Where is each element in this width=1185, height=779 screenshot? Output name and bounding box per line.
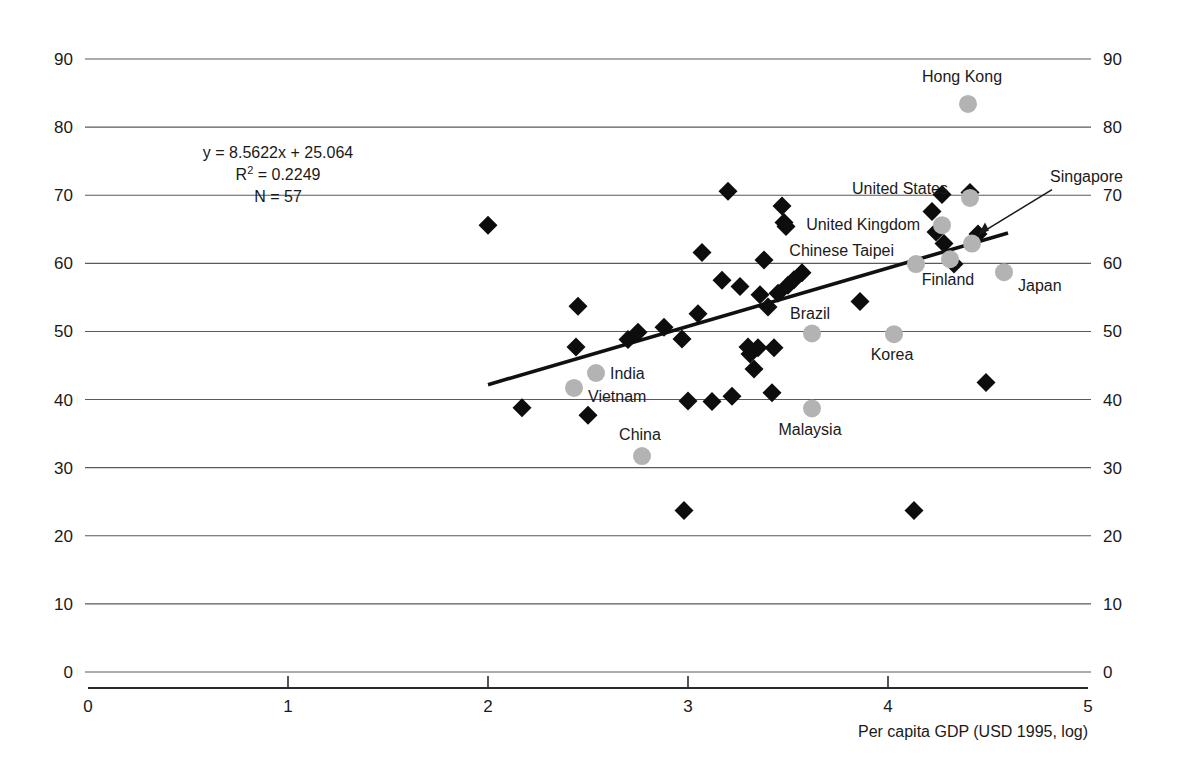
data-point-diamond	[675, 501, 694, 520]
y-axis-right-tick-labels: 0102030405060708090	[1103, 50, 1122, 682]
y-tick-label-right: 80	[1103, 118, 1122, 137]
data-point-diamond	[773, 197, 792, 216]
y-tick-label-right: 40	[1103, 391, 1122, 410]
data-point-circle	[885, 325, 903, 343]
data-point-diamond	[713, 271, 732, 290]
data-point-label: India	[610, 365, 645, 382]
data-point-circle	[959, 95, 977, 113]
data-point-diamond	[673, 329, 692, 348]
y-axis-left-tick-labels: 0102030405060708090	[54, 50, 73, 682]
y-tick-label-left: 60	[54, 254, 73, 273]
data-point-label: Korea	[871, 346, 914, 363]
y-tick-label-right: 50	[1103, 322, 1122, 341]
x-tick-label: 4	[883, 697, 892, 716]
y-tick-label-left: 10	[54, 595, 73, 614]
data-point-circle	[961, 189, 979, 207]
data-point-label: Hong Kong	[922, 68, 1002, 85]
data-point-diamond	[569, 297, 588, 316]
y-tick-label-right: 90	[1103, 50, 1122, 69]
data-point-diamond	[977, 373, 996, 392]
label-leader-lines	[978, 190, 1052, 236]
data-point-diamond	[905, 501, 924, 520]
scatter-chart: 0102030405060708090 0102030405060708090 …	[0, 0, 1185, 779]
y-tick-label-right: 0	[1103, 663, 1112, 682]
y-tick-label-right: 10	[1103, 595, 1122, 614]
sample-size: N = 57	[254, 188, 302, 205]
data-point-circle	[963, 235, 981, 253]
x-tick-label: 0	[83, 697, 92, 716]
data-point-diamond	[719, 182, 738, 201]
data-point-circle	[803, 324, 821, 342]
data-point-circle	[565, 379, 583, 397]
x-tick-label: 3	[683, 697, 692, 716]
data-point-label: China	[619, 426, 661, 443]
data-point-diamond	[755, 250, 774, 269]
x-axis	[88, 676, 1088, 688]
plot-area: 0102030405060708090 0102030405060708090 …	[0, 0, 1185, 779]
y-tick-label-left: 30	[54, 459, 73, 478]
data-point-circle	[995, 263, 1013, 281]
data-point-diamond	[731, 277, 750, 296]
regression-equation: y = 8.5622x + 25.064	[203, 144, 353, 161]
x-tick-label: 2	[483, 697, 492, 716]
y-tick-label-left: 80	[54, 118, 73, 137]
x-axis-title: Per capita GDP (USD 1995, log)	[858, 723, 1088, 740]
y-tick-label-left: 0	[64, 663, 73, 682]
data-point-label: Vietnam	[588, 388, 646, 405]
data-point-diamond	[693, 243, 712, 262]
data-point-circle	[933, 216, 951, 234]
y-tick-label-left: 70	[54, 186, 73, 205]
data-point-labels: Hong KongUnited StatesSingaporeUnited Ki…	[588, 68, 1123, 443]
data-point-diamond	[765, 338, 784, 357]
regression-trend-line	[488, 233, 1008, 385]
data-point-diamond	[579, 406, 598, 425]
y-tick-label-left: 50	[54, 322, 73, 341]
data-point-diamond	[567, 338, 586, 357]
data-point-diamond	[513, 398, 532, 417]
y-tick-label-left: 90	[54, 50, 73, 69]
y-tick-label-left: 20	[54, 527, 73, 546]
r-squared-value: R2 = 0.2249	[236, 164, 321, 183]
x-axis-tick-labels: 012345	[83, 697, 1092, 716]
data-point-diamond	[851, 292, 870, 311]
data-point-label: United Kingdom	[806, 216, 920, 233]
data-point-diamond	[679, 391, 698, 410]
y-tick-label-right: 30	[1103, 459, 1122, 478]
x-tick-label: 1	[283, 697, 292, 716]
data-point-label: United States	[852, 180, 948, 197]
data-point-circle	[587, 364, 605, 382]
trend-line	[488, 233, 1008, 385]
data-point-diamond	[479, 216, 498, 235]
leader-line-singapore	[980, 190, 1052, 234]
regression-annotation: y = 8.5622x + 25.064R2 = 0.2249N = 57	[203, 144, 353, 205]
data-point-label: Malaysia	[778, 421, 841, 438]
data-point-circle	[633, 447, 651, 465]
y-tick-label-right: 60	[1103, 254, 1122, 273]
data-point-label: Finland	[922, 271, 974, 288]
data-point-diamond	[723, 387, 742, 406]
data-point-label: Chinese Taipei	[789, 242, 894, 259]
data-point-diamond	[703, 392, 722, 411]
data-point-label: Brazil	[790, 305, 830, 322]
y-tick-label-right: 20	[1103, 527, 1122, 546]
x-tick-label: 5	[1083, 697, 1092, 716]
data-point-label: Japan	[1018, 277, 1062, 294]
x-axis-title-text: Per capita GDP (USD 1995, log)	[858, 723, 1088, 740]
data-point-diamond	[745, 359, 764, 378]
y-tick-label-right: 70	[1103, 186, 1122, 205]
data-point-circle	[803, 399, 821, 417]
data-point-label: Singapore	[1050, 168, 1123, 185]
data-point-circle	[941, 250, 959, 268]
y-tick-label-left: 40	[54, 391, 73, 410]
